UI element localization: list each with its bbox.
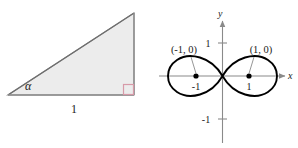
base-length-label: 1	[71, 102, 77, 116]
point-label-left: (-1, 0)	[171, 44, 198, 56]
right-triangle-svg: α 1	[0, 0, 149, 148]
leader-line-left	[191, 57, 196, 74]
x-tick-label-1: 1	[247, 81, 252, 92]
y-tick-label-neg-1: -1	[202, 114, 210, 125]
x-axis-label: x	[287, 70, 293, 81]
x-tick-label-neg-1: -1	[192, 81, 200, 92]
right-triangle-panel: α 1	[0, 0, 149, 148]
angle-alpha-label: α	[25, 79, 32, 93]
point-marker-right	[246, 73, 251, 78]
figure-root: α 1 y x	[0, 0, 298, 148]
leader-line-right	[249, 57, 254, 74]
point-label-right: (1, 0)	[250, 44, 273, 56]
y-axis-label: y	[217, 8, 223, 19]
lemniscate-panel: y x 1 -1 (-1, 0) (1, 0) -1 1	[149, 0, 298, 148]
lemniscate-svg: y x 1 -1 (-1, 0) (1, 0) -1 1	[149, 0, 298, 148]
point-marker-left	[193, 73, 198, 78]
y-tick-label-1: 1	[206, 38, 211, 49]
